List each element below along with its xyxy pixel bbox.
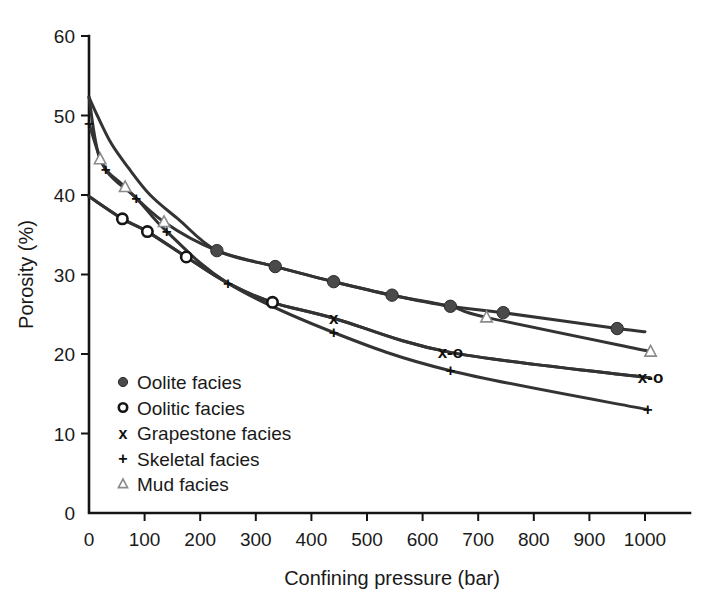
x-tick-label: 900	[574, 529, 606, 550]
y-tick-label: 10	[54, 424, 75, 445]
legend-oolite-facies-filled-circle-icon	[118, 377, 127, 386]
oolite-facies-filled-circle-marker	[211, 244, 223, 256]
skeletal-facies-plus-marker: +	[162, 222, 172, 241]
oolitic-facies-open-circle-marker	[142, 226, 152, 236]
y-tick-label: 0	[64, 503, 75, 524]
x-tick-label: 100	[129, 529, 161, 550]
legend-oolitic-facies-open-circle-icon	[119, 403, 127, 411]
y-tick-label: 60	[54, 26, 75, 47]
x-tick-label: 800	[518, 529, 550, 550]
x-tick-label: 1000	[624, 529, 666, 550]
y-tick-label: 20	[54, 344, 75, 365]
data-series	[89, 97, 651, 409]
combined-x-o-marker: x-o	[638, 368, 664, 387]
legend-oolitic-facies-label: Oolitic facies	[137, 398, 245, 419]
combined-x-o-marker: x-o	[438, 343, 464, 362]
x-tick-label: 0	[84, 529, 95, 550]
skeletal-facies-plus-marker: +	[223, 274, 233, 293]
oolite-facies-filled-circle-marker	[611, 322, 623, 334]
series-line-mud-facies	[89, 97, 651, 351]
legend-oolite-facies-label: Oolite facies	[137, 372, 242, 393]
skeletal-facies-plus-marker: +	[84, 114, 94, 133]
oolite-facies-filled-circle-marker	[269, 260, 281, 272]
oolitic-facies-open-circle-marker	[181, 252, 191, 262]
x-tick-label: 700	[462, 529, 494, 550]
oolite-facies-filled-circle-marker	[497, 306, 509, 318]
legend-grapestone-facies-label: Grapestone facies	[137, 423, 291, 444]
legend-grapestone-facies-x-icon: x	[119, 425, 128, 442]
oolitic-facies-open-circle-marker	[267, 297, 277, 307]
legend-mud-facies-label: Mud facies	[137, 474, 229, 495]
x-tick-label: 400	[296, 529, 328, 550]
x-tick-label: 200	[184, 529, 216, 550]
chart-legend: Oolite faciesOolitic faciesxGrapestone f…	[118, 372, 291, 495]
legend-mud-facies-triangle-icon	[118, 479, 127, 488]
x-tick-label: 300	[240, 529, 272, 550]
x-axis-title: Confining pressure (bar)	[284, 567, 500, 589]
oolite-facies-filled-circle-marker	[386, 289, 398, 301]
skeletal-facies-plus-marker: +	[131, 189, 141, 208]
series-line-grapestone-facies	[89, 197, 651, 378]
y-tick-label: 40	[54, 185, 75, 206]
grapestone-facies-x-marker: x	[329, 309, 339, 328]
legend-skeletal-facies-plus-icon: +	[118, 450, 127, 467]
oolitic-facies-open-circle-marker	[117, 214, 127, 224]
y-axis-title: Porosity (%)	[15, 220, 37, 329]
x-tick-label: 500	[351, 529, 383, 550]
skeletal-facies-plus-marker: +	[643, 400, 653, 419]
series-line-oolitic-facies	[89, 197, 651, 378]
porosity-vs-pressure-chart: 0102030405060010020030040050060070080090…	[0, 0, 709, 601]
x-tick-label: 600	[407, 529, 439, 550]
series-line-oolite-facies	[89, 97, 645, 332]
legend-skeletal-facies-label: Skeletal facies	[137, 449, 260, 470]
oolite-facies-filled-circle-marker	[444, 300, 456, 312]
y-tick-label: 50	[54, 106, 75, 127]
skeletal-facies-plus-marker: +	[101, 160, 111, 179]
axes: 0102030405060010020030040050060070080090…	[54, 26, 690, 550]
chart-figure: 0102030405060010020030040050060070080090…	[0, 0, 709, 601]
skeletal-facies-plus-marker: +	[445, 361, 455, 380]
oolite-facies-filled-circle-marker	[327, 275, 339, 287]
y-tick-label: 30	[54, 265, 75, 286]
